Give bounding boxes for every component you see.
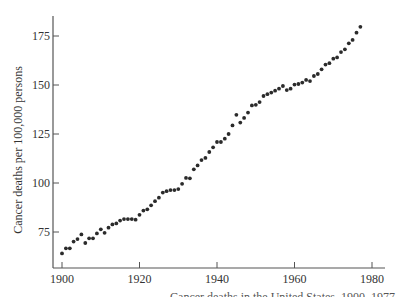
data-point xyxy=(60,252,64,256)
data-point xyxy=(238,121,242,125)
data-point xyxy=(281,84,285,88)
data-point xyxy=(153,199,157,203)
data-points xyxy=(60,25,362,255)
data-point xyxy=(335,56,339,60)
data-point xyxy=(126,217,130,221)
data-point xyxy=(269,91,273,95)
y-tick-label: 125 xyxy=(32,127,50,141)
data-point xyxy=(87,236,91,240)
scatter-chart: 75100125150175 19001920194019601980 Canc… xyxy=(0,0,399,297)
x-ticks: 19001920194019601980 xyxy=(50,262,384,286)
y-axis-title: Cancer deaths per 100,000 persons xyxy=(11,66,25,234)
data-point xyxy=(180,182,184,186)
data-point xyxy=(223,137,227,141)
data-point xyxy=(145,207,149,211)
data-point xyxy=(258,100,262,104)
x-tick-label: 1920 xyxy=(128,272,152,286)
data-point xyxy=(111,223,115,227)
data-point xyxy=(192,167,196,171)
data-point xyxy=(351,38,355,42)
data-point xyxy=(149,203,153,207)
data-point xyxy=(300,81,304,85)
data-point xyxy=(343,47,347,51)
data-point xyxy=(103,231,107,235)
data-point xyxy=(76,237,80,241)
x-tick-label: 1940 xyxy=(205,272,229,286)
data-point xyxy=(200,158,204,162)
y-tick-label: 100 xyxy=(32,176,50,190)
data-point xyxy=(262,94,266,98)
data-point xyxy=(130,217,134,221)
data-point xyxy=(219,140,223,144)
data-point xyxy=(72,240,76,244)
data-point xyxy=(331,57,335,61)
data-point xyxy=(188,176,192,180)
data-point xyxy=(339,50,343,54)
data-point xyxy=(83,241,87,245)
figure-caption: Cancer deaths in the United States, 1900… xyxy=(0,289,399,297)
data-point xyxy=(207,150,211,154)
x-tick-label: 1900 xyxy=(50,272,74,286)
data-point xyxy=(235,113,239,117)
data-point xyxy=(64,246,68,250)
data-point xyxy=(297,82,301,86)
data-point xyxy=(254,103,258,107)
data-point xyxy=(231,124,235,128)
y-tick-label: 175 xyxy=(32,29,50,43)
data-point xyxy=(215,140,219,144)
data-point xyxy=(316,72,320,76)
data-point xyxy=(122,217,126,221)
data-point xyxy=(359,25,363,29)
data-point xyxy=(107,226,111,230)
data-point xyxy=(99,227,103,231)
data-point xyxy=(347,41,351,45)
data-point xyxy=(114,222,118,226)
data-point xyxy=(328,61,332,65)
data-point xyxy=(91,236,95,240)
data-point xyxy=(289,87,293,91)
data-point xyxy=(196,164,200,168)
data-point xyxy=(184,176,188,180)
data-point xyxy=(227,132,231,136)
x-tick-label: 1980 xyxy=(360,272,384,286)
data-point xyxy=(246,111,250,115)
data-point xyxy=(118,219,122,223)
data-point xyxy=(95,232,99,236)
data-point xyxy=(134,218,138,222)
data-point xyxy=(161,191,165,195)
y-tick-label: 150 xyxy=(32,78,50,92)
data-point xyxy=(285,88,289,92)
y-ticks: 75100125150175 xyxy=(32,29,59,239)
data-point xyxy=(355,31,359,35)
data-point xyxy=(169,188,173,192)
data-point xyxy=(68,246,72,250)
data-point xyxy=(138,213,142,217)
data-point xyxy=(304,78,308,82)
data-point xyxy=(204,156,208,160)
data-point xyxy=(80,233,84,237)
data-point xyxy=(250,104,254,108)
data-point xyxy=(173,188,177,192)
data-point xyxy=(157,196,161,200)
x-tick-label: 1960 xyxy=(283,272,307,286)
data-point xyxy=(211,145,215,149)
data-point xyxy=(242,116,246,120)
data-point xyxy=(277,87,281,91)
data-point xyxy=(273,89,277,93)
y-tick-label: 75 xyxy=(38,225,50,239)
data-point xyxy=(312,74,316,78)
data-point xyxy=(266,92,270,96)
data-point xyxy=(308,79,312,83)
data-point xyxy=(165,189,169,193)
data-point xyxy=(293,83,297,87)
data-point xyxy=(176,187,180,191)
data-point xyxy=(320,67,324,71)
data-point xyxy=(142,209,146,213)
data-point xyxy=(324,63,328,67)
